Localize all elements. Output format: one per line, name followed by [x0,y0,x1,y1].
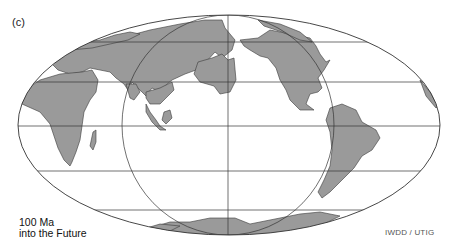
caption-line-2: into the Future [19,228,87,239]
credit-label: IWDD / UTIG [385,228,434,237]
panel-label: (c) [12,16,25,28]
time-caption: 100 Ma into the Future [19,217,87,239]
world-map [0,0,455,246]
